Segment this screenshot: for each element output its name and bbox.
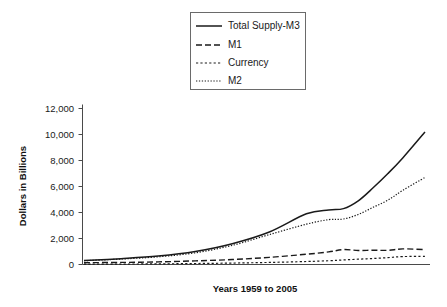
chart-screenshot: 12,000 10,000 8,000 6,000 4,000 2,000 0 … (0, 0, 447, 307)
y-tick-labels: 12,000 10,000 8,000 6,000 4,000 2,000 0 (45, 103, 74, 270)
y-tick-label: 4,000 (50, 207, 74, 218)
series-line-m1 (84, 249, 425, 263)
y-tick-label: 8,000 (50, 155, 74, 166)
chart-legend: Total Supply-M3 M1 Currency M2 (191, 13, 306, 90)
legend-label-currency: Currency (228, 57, 269, 68)
y-tick-label: 0 (69, 259, 74, 270)
y-tick-label: 2,000 (50, 233, 74, 244)
series-line-total-supply-m3 (84, 132, 425, 261)
x-axis-title: Years 1959 to 2005 (213, 283, 298, 294)
y-axis-ticks (79, 109, 83, 265)
money-supply-line-chart: 12,000 10,000 8,000 6,000 4,000 2,000 0 … (0, 0, 447, 307)
series-line-m2 (84, 177, 425, 260)
y-tick-label: 12,000 (45, 103, 74, 114)
legend-label-total-supply-m3: Total Supply-M3 (228, 20, 300, 31)
legend-label-m1: M1 (228, 39, 242, 50)
data-series-group (84, 132, 425, 264)
y-tick-label: 6,000 (50, 181, 74, 192)
axis-lines (83, 105, 431, 265)
legend-label-m2: M2 (228, 75, 242, 86)
y-axis-title: Dollars in Billions (17, 146, 28, 226)
y-tick-label: 10,000 (45, 129, 74, 140)
